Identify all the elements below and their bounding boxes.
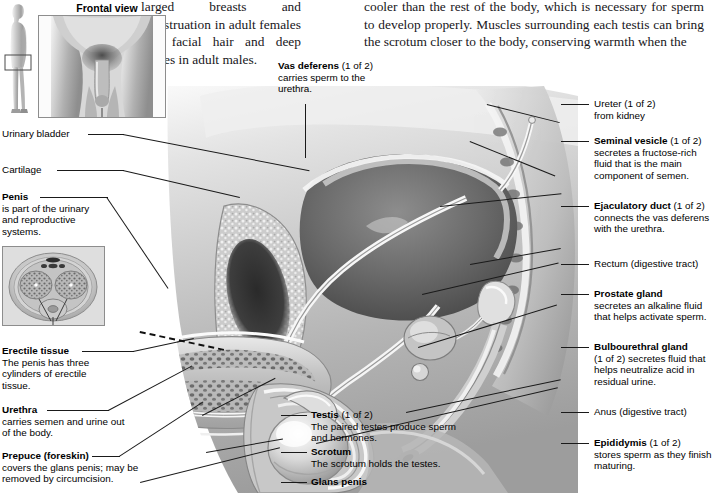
frontal-view-caption: Frontal view <box>59 2 155 14</box>
label-rectum-term: Rectum (digestive tract) <box>594 258 698 269</box>
label-prostate-gland-description: secretes an alkaline fluid that helps ac… <box>594 300 707 323</box>
label-scrotum-term: Scrotum <box>311 446 351 457</box>
label-scrotum-description: The scrotum holds the testes. <box>311 458 441 469</box>
leader-line-seminal-vesicle <box>561 141 589 142</box>
label-prepuce: Prepuce (foreskin) covers the glans peni… <box>2 450 152 485</box>
leader-line-scrotum <box>281 452 307 453</box>
label-glans-penis-term: Glans penis <box>311 476 367 487</box>
leader-line-epididymis <box>561 443 589 444</box>
label-urethra: Urethra carries semen and urine out of t… <box>2 404 128 439</box>
label-scrotum: Scrotum The scrotum holds the testes. <box>311 446 481 469</box>
penis-cross-section-inset <box>2 246 105 326</box>
label-urethra-description: carries semen and urine out of the body. <box>2 416 124 439</box>
label-ureter: Ureter (1 of 2) from kidney <box>594 98 709 121</box>
label-glans-penis: Glans penis <box>311 476 431 488</box>
label-bulbourethral-gland-description: (1 of 2) secretes fluid that helps neutr… <box>594 353 705 387</box>
label-anus-term: Anus (digestive tract) <box>594 406 687 417</box>
label-erectile-tissue-term: Erectile tissue <box>2 345 69 356</box>
leader-line-bulbourethral-gland <box>561 347 589 348</box>
label-penis-term: Penis <box>2 191 28 202</box>
label-urethra-term: Urethra <box>2 404 37 415</box>
label-erectile-tissue-description: The penis has three cylinders of erectil… <box>2 357 89 391</box>
label-cartilage: Cartilage <box>2 164 72 176</box>
label-rectum: Rectum (digestive tract) <box>594 258 712 270</box>
label-testis-description: The paired testes produce sperm and horm… <box>311 421 456 444</box>
label-ureter-term: Ureter <box>594 98 621 109</box>
leader-line-testis <box>281 415 307 416</box>
leader-line-vas-deferens <box>305 104 306 158</box>
leader-line-prostate-gland <box>561 294 589 295</box>
label-ejaculatory-duct-term: Ejaculatory duct <box>594 200 671 211</box>
label-vas-deferens-description: carries sperm to the urethra. <box>278 72 365 95</box>
label-ureter-description: from kidney <box>594 110 645 121</box>
label-testis-qualifier: (1 of 2) <box>342 409 373 420</box>
label-epididymis-description: stores sperm as they finish maturing. <box>594 449 711 472</box>
label-prostate-gland: Prostate gland secretes an alkaline flui… <box>594 288 712 323</box>
label-seminal-vesicle-qualifier: (1 of 2) <box>670 135 701 146</box>
label-prepuce-term: Prepuce (foreskin) <box>2 450 89 461</box>
leader-line-ejaculatory-duct <box>561 206 589 207</box>
leader-line-ureter <box>561 104 589 105</box>
label-ureter-qualifier: (1 of 2) <box>624 98 655 109</box>
label-epididymis-qualifier: (1 of 2) <box>649 437 680 448</box>
frontal-view-inset <box>38 15 166 118</box>
standing-male-figure-inset <box>2 2 36 116</box>
leader-line-anus <box>561 412 589 413</box>
label-erectile-tissue: Erectile tissue The penis has three cyli… <box>2 345 106 391</box>
label-seminal-vesicle-description: secretes a fructose-rich fluid that is t… <box>594 147 697 181</box>
label-testis-term: Testis <box>311 409 339 420</box>
label-vas-deferens-term: Vas deferens <box>278 60 339 71</box>
label-urinary-bladder: Urinary bladder <box>2 128 92 140</box>
label-penis: Penis is part of the urinary and reprodu… <box>2 191 104 237</box>
label-prepuce-description: covers the glans penis; may be removed b… <box>2 462 138 485</box>
leader-line-urinary-bladder <box>88 134 124 135</box>
label-ejaculatory-duct: Ejaculatory duct (1 of 2) connects the v… <box>594 200 712 235</box>
label-ejaculatory-duct-qualifier: (1 of 2) <box>674 200 705 211</box>
leader-line-rectum <box>561 264 589 265</box>
label-cartilage-term: Cartilage <box>2 164 42 175</box>
label-bulbourethral-gland-term: Bulbourethral gland <box>594 341 688 352</box>
label-epididymis-term: Epididymis <box>594 437 647 448</box>
label-seminal-vesicle-term: Seminal vesicle <box>594 135 668 146</box>
leader-line-glans-penis <box>281 482 307 483</box>
label-bulbourethral-gland: Bulbourethral gland (1 of 2) secretes fl… <box>594 341 712 387</box>
body-text-right-column: cooler than the rest of the body, which … <box>364 0 704 51</box>
label-vas-deferens: Vas deferens (1 of 2) carries sperm to t… <box>278 60 398 95</box>
label-penis-description: is part of the urinary and reproductive … <box>2 203 89 237</box>
label-urinary-bladder-term: Urinary bladder <box>2 128 70 139</box>
label-prostate-gland-term: Prostate gland <box>594 288 663 299</box>
label-testis: Testis (1 of 2) The paired testes produc… <box>311 409 461 444</box>
label-vas-deferens-qualifier: (1 of 2) <box>342 60 373 71</box>
label-seminal-vesicle: Seminal vesicle (1 of 2) secretes a fruc… <box>594 135 712 181</box>
label-epididymis: Epididymis (1 of 2) stores sperm as they… <box>594 437 712 472</box>
label-anus: Anus (digestive tract) <box>594 406 712 418</box>
label-ejaculatory-duct-description: connects the vas deferens with the ureth… <box>594 212 709 235</box>
